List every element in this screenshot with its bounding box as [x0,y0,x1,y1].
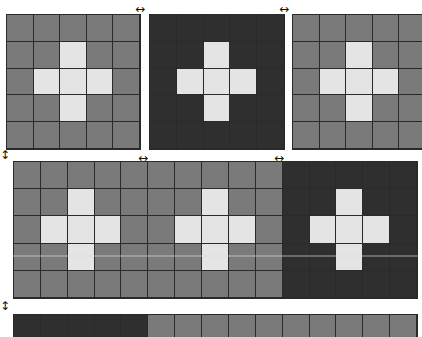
grid-cell [310,271,337,298]
grid-cell [390,216,417,243]
grid-cell [363,216,390,243]
grid-cell [34,69,61,96]
grid-cell [68,315,95,337]
grid-cell [283,271,310,298]
grid-cell [121,162,148,189]
grid-cell [68,244,95,271]
grid-cell [229,271,256,298]
resize-handle-mid-1-horizontal-resize-icon[interactable]: ↔ [138,152,148,164]
grid-cell [257,95,284,122]
grid-cell [34,42,61,69]
grid-cell [230,69,257,96]
resize-handle-row-1-vertical-resize-icon[interactable]: ↕ [0,149,10,161]
panel-top-3[interactable] [292,14,422,150]
grid-cell [34,122,61,149]
grid-cell [257,69,284,96]
grid-cell [175,216,202,243]
grid-cell [363,162,390,189]
grid-cell [256,162,283,189]
grid-cell [283,315,310,337]
grid-cell [293,122,320,149]
grid-cell [390,244,417,271]
grid-cell [310,189,337,216]
grid-cell [87,15,114,42]
grid-cell [113,15,140,42]
grid-cell [363,271,390,298]
grid-cell [310,216,337,243]
grid-cell [87,122,114,149]
panel-bottom-strip[interactable] [13,314,418,337]
grid-cell [399,15,422,42]
grid-cell [202,244,229,271]
grid-cell [175,271,202,298]
grid-cell [320,15,347,42]
grid-cell [399,69,422,96]
grid-cell [121,271,148,298]
grid-cell [336,189,363,216]
grid-cell [336,244,363,271]
grid-cell [293,69,320,96]
grid-cell [230,42,257,69]
grid-cell [95,315,122,337]
panel-top-2[interactable] [149,14,285,150]
grid-cell [41,162,68,189]
grid-cell [177,69,204,96]
grid-cell [373,69,400,96]
grid-cell [150,15,177,42]
grid-cell [373,42,400,69]
grid-cell [121,189,148,216]
resize-handle-top-1-horizontal-resize-icon[interactable]: ↔ [135,3,145,15]
grid-cell [14,216,41,243]
grid-cell [7,42,34,69]
grid-cell [346,69,373,96]
resize-handle-mid-2-horizontal-resize-icon[interactable]: ↔ [274,152,284,164]
grid-cell [121,216,148,243]
grid-cell [390,189,417,216]
grid-cell [14,315,41,337]
panel-middle-strip[interactable] [13,161,418,299]
grid-cell [346,15,373,42]
grid-cell [60,122,87,149]
grid-cell [121,315,148,337]
grid-cell [175,244,202,271]
grid-cell [373,95,400,122]
grid-cell [293,42,320,69]
grid-cell [283,189,310,216]
grid-cell [204,95,231,122]
grid-cell [346,42,373,69]
grid-cell [175,189,202,216]
grid-cell [399,122,422,149]
grid-cell [230,15,257,42]
panel-top-1[interactable] [6,14,141,150]
grid-cell [283,216,310,243]
grid-cell [204,42,231,69]
grid-cell [148,271,175,298]
grid-cell [256,244,283,271]
grid-cell [14,162,41,189]
grid-cell [175,315,202,337]
grid-cell [229,216,256,243]
grid-cell [34,95,61,122]
grid-cell [390,271,417,298]
grid-cell [230,122,257,149]
grid-cell [256,189,283,216]
grid-cell [256,216,283,243]
grid-cell [363,189,390,216]
grid-cell [229,244,256,271]
grid-cell [41,271,68,298]
grid-cell [148,162,175,189]
grid-cell [230,95,257,122]
resize-handle-row-2-vertical-resize-icon[interactable]: ↕ [0,300,10,312]
grid-cell [177,122,204,149]
grid-cell [346,122,373,149]
grid-cell [7,122,34,149]
grid-cell [150,42,177,69]
grid-cell [229,162,256,189]
grid-cell [14,271,41,298]
grid-cell [256,315,283,337]
grid-cell [363,244,390,271]
grid-cell [310,162,337,189]
resize-handle-top-2-horizontal-resize-icon[interactable]: ↔ [279,3,289,15]
grid-cell [60,42,87,69]
grid-cell [113,69,140,96]
